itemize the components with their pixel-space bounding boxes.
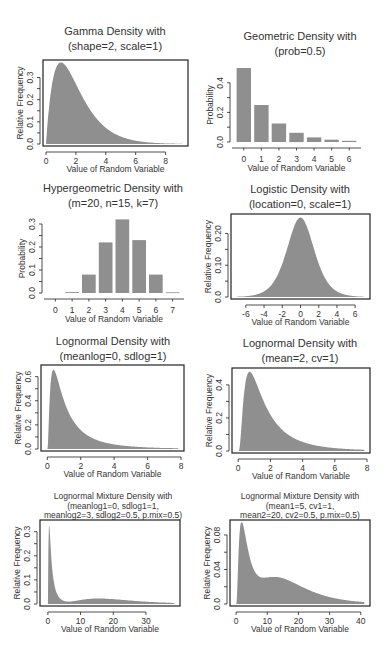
chart-panel-4: Logistic Density with(location=0, scale=… [203, 183, 370, 327]
y-tick-label: 0.2 [27, 241, 37, 253]
x-tick-label: 8 [179, 461, 184, 471]
x-tick-label: 7 [170, 305, 175, 315]
bar [116, 219, 130, 293]
bar [307, 137, 321, 142]
y-tick-label: 0.4 [23, 395, 33, 407]
x-axis-label: Value of Random Variable [252, 317, 350, 327]
y-tick-label: 0.6 [23, 370, 33, 382]
chart-title: Gamma Density with [64, 25, 165, 37]
chart-subtitle: (shape=2, scale=1) [68, 40, 162, 52]
bar [132, 240, 146, 293]
bar [342, 141, 356, 142]
density-plots-grid: Gamma Density with(shape=2, scale=1)0246… [0, 0, 390, 663]
density-area [48, 370, 179, 449]
y-tick-label: 0.0 [22, 598, 32, 610]
y-tick-label: 0.0 [212, 598, 222, 610]
bar [324, 140, 338, 142]
bar [254, 105, 268, 142]
y-tick-label: 0.3 [22, 525, 32, 537]
y-axis-label: Probability [17, 238, 27, 278]
y-axis-label: Probability [205, 84, 215, 124]
y-tick-label: 0.2 [25, 94, 35, 106]
y-tick-label: 0.20 [213, 225, 223, 242]
y-tick-label: 0.1 [27, 264, 37, 276]
bar [272, 124, 286, 143]
y-axis-label: Relative Frequency [202, 526, 212, 600]
x-tick-label: 0 [44, 156, 49, 166]
chart-subtitle: (mean=2, cv=1) [261, 352, 338, 364]
x-tick-label: 0 [53, 305, 58, 315]
y-tick-label: 0.0 [27, 287, 37, 299]
y-tick-label: 0.4 [214, 379, 224, 391]
x-tick-label: 8 [365, 463, 370, 473]
x-tick-label: 40 [356, 616, 366, 626]
y-tick-label: 0.08 [212, 526, 222, 543]
y-tick-label: 0.1 [22, 574, 32, 586]
x-tick-label: -6 [242, 309, 250, 319]
x-tick-label: 0 [234, 616, 239, 626]
chart-subtitle: (meanlog=0, sdlog=1) [59, 350, 166, 362]
y-axis-label: Relative Frequency [15, 66, 25, 140]
y-tick-label: 0.2 [214, 412, 224, 424]
y-tick-label: 0.0 [23, 443, 33, 455]
x-axis-label: Value of Random Variable [248, 163, 346, 173]
y-tick-label: 0.0 [213, 291, 223, 303]
y-tick-label: 0.04 [212, 561, 222, 578]
y-axis-label: Relative Frequency [13, 371, 23, 445]
chart-panel-3: Hypergeometric Density with(m=20, n=15, … [17, 182, 184, 324]
density-area [238, 372, 364, 451]
bar [166, 292, 180, 293]
x-tick-label: 0 [241, 154, 246, 164]
bar [289, 133, 303, 142]
chart-panel-8: Lognormal Mixture Density with(mean1=5, … [202, 491, 370, 634]
chart-title: Lognormal Density with [243, 337, 357, 349]
chart-title: Lognormal Density with [56, 335, 170, 347]
chart-title: Logistic Density with [250, 183, 350, 195]
y-tick-label: 0.2 [22, 550, 32, 562]
y-tick-label: 0.2 [23, 419, 33, 431]
density-area [237, 218, 365, 297]
bar [65, 292, 79, 293]
y-tick-label: 0.3 [25, 71, 35, 83]
chart-title: Lognormal Mixture Density with [54, 491, 173, 501]
bar [82, 275, 96, 293]
x-tick-label: 6 [347, 154, 352, 164]
chart-panel-5: Lognormal Density with(meanlog=0, sdlog=… [13, 335, 184, 479]
density-area [236, 522, 364, 604]
bar [237, 68, 251, 142]
x-axis-label: Value of Random Variable [251, 624, 349, 634]
bar [149, 275, 163, 293]
y-tick-label: 0.0 [25, 138, 35, 150]
chart-title: Lognormal Mixture Density with [241, 491, 360, 501]
x-axis-label: Value of Random Variable [67, 164, 165, 174]
y-tick-label: 0.0 [214, 445, 224, 457]
y-tick-label: 0.1 [25, 116, 35, 128]
x-tick-label: 6 [353, 309, 358, 319]
chart-panel-6: Lognormal Density with(mean=2, cv=1)0246… [204, 337, 370, 481]
plot-frame [40, 520, 180, 606]
y-tick-label: 0.0 [215, 136, 225, 148]
x-tick-label: 0 [236, 463, 241, 473]
y-tick-label: 0.2 [215, 106, 225, 118]
y-axis-label: Relative Frequency [12, 526, 22, 600]
x-axis-label: Value of Random Variable [61, 624, 159, 634]
chart-panel-1: Gamma Density with(shape=2, scale=1)0246… [15, 25, 188, 174]
chart-subtitle: (location=0, scale=1) [249, 198, 351, 210]
y-tick-label: 0.10 [213, 257, 223, 274]
y-axis-label: Relative Frequency [203, 219, 213, 293]
x-tick-label: 0 [46, 616, 51, 626]
y-axis-label: Relative Frequency [204, 373, 214, 447]
chart-subtitle: (prob=0.5) [274, 45, 325, 57]
bar [99, 242, 113, 293]
chart-subtitle: (m=20, n=15, k=7) [68, 197, 158, 209]
y-tick-label: 0.3 [27, 218, 37, 230]
chart-title: Hypergeometric Density with [43, 182, 183, 194]
x-tick-label: 0 [45, 461, 50, 471]
x-axis-label: Value of Random Variable [65, 314, 163, 324]
x-axis-label: Value of Random Variable [64, 469, 162, 479]
density-area [46, 63, 182, 145]
x-axis-label: Value of Random Variable [252, 471, 350, 481]
chart-title: Geometric Density with [243, 30, 356, 42]
chart-panel-7: Lognormal Mixture Density with(meanlog1=… [12, 491, 182, 634]
chart-panel-2: Geometric Density with(prob=0.5)01234560… [205, 30, 361, 173]
